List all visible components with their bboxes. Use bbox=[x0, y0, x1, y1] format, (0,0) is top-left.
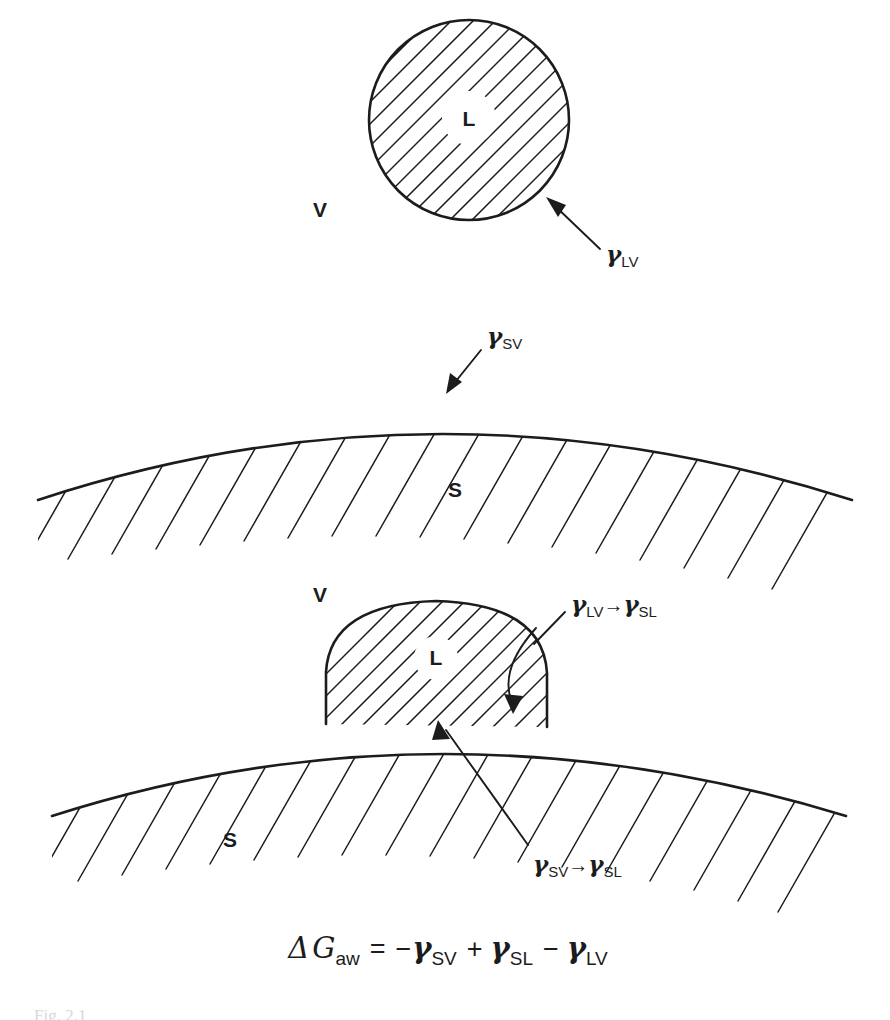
panel-drop-on-solid: L V S γLV→γSL γSV→γSL bbox=[0, 583, 858, 912]
gamma-sv-to-sl-leader-line bbox=[446, 730, 528, 845]
drop-hatching bbox=[330, 0, 780, 252]
gamma-sv-to-sl-arrowhead bbox=[432, 720, 450, 740]
gamma-sv-to-sl-label: γSV→γSL bbox=[533, 850, 622, 880]
solid-hatching-middle bbox=[0, 396, 852, 589]
gamma-sv-label: γSV bbox=[487, 322, 522, 352]
figure-root: L V γLV bbox=[0, 0, 890, 1020]
gamma-lv-to-sl-label: γLV→γSL bbox=[571, 590, 657, 620]
panel-bare-solid: S γSV bbox=[0, 322, 852, 589]
figure-caption-cropped: Fig. 2.1 bbox=[34, 1006, 454, 1020]
drop-vapor-label: V bbox=[313, 198, 327, 221]
drop-liquid-label: L bbox=[463, 107, 476, 130]
solid-label-lower: S bbox=[223, 828, 237, 851]
solid-label-middle: S bbox=[448, 478, 462, 501]
sessile-vapor-label: V bbox=[313, 583, 327, 606]
gamma-lv-label: γLV bbox=[606, 240, 638, 270]
figure-canvas: L V γLV bbox=[0, 0, 890, 1020]
gamma-lv-to-sl-arrowhead bbox=[504, 694, 523, 714]
solid-hatching-lower bbox=[0, 715, 858, 912]
free-energy-equation: ΔGaw=−γSV+γSL−γLV bbox=[287, 931, 608, 969]
solid-surface-middle bbox=[38, 434, 852, 500]
gamma-lv-to-sl-leader-line bbox=[534, 612, 565, 644]
panel-free-drop: L V γLV bbox=[313, 0, 780, 270]
solid-surface-lower bbox=[52, 754, 846, 816]
gamma-lv-to-sl-curved-arrow bbox=[508, 628, 536, 700]
sessile-liquid-label: L bbox=[430, 646, 443, 669]
